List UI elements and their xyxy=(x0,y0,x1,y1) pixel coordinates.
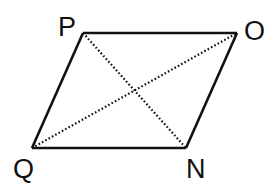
vertex-labels: P O N Q xyxy=(13,12,265,184)
parallelogram-diagonals xyxy=(32,33,237,148)
side-qp xyxy=(32,33,83,148)
side-on xyxy=(186,33,237,148)
vertex-label-o: O xyxy=(244,16,265,46)
vertex-label-n: N xyxy=(186,154,206,184)
parallelogram-diagram: P O N Q xyxy=(0,0,279,186)
vertex-label-q: Q xyxy=(13,154,34,184)
vertex-label-p: P xyxy=(58,12,76,42)
diagonal-pn xyxy=(83,33,186,148)
